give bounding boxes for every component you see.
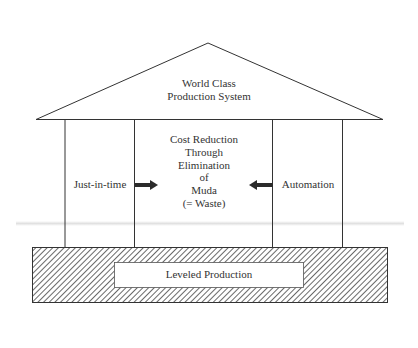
center-line-3: Elimination [135, 159, 273, 172]
house-diagram: World Class Production System Cost Reduc… [0, 0, 418, 348]
center-label: Cost Reduction Through Elimination of Mu… [135, 133, 273, 210]
pillar-label-automation: Automation [273, 178, 343, 191]
center-line-4: of [135, 171, 273, 184]
foundation-label: Leveled Production [114, 268, 304, 281]
pillar-label-just-in-time: Just-in-time [65, 178, 135, 191]
roof-line-1: World Class [134, 77, 284, 90]
roof-line-2: Production System [134, 90, 284, 103]
center-line-1: Cost Reduction [135, 133, 273, 146]
center-line-6: (= Waste) [135, 197, 273, 210]
center-line-2: Through [135, 146, 273, 159]
roof-label: World Class Production System [134, 77, 284, 103]
center-line-5: Muda [135, 184, 273, 197]
